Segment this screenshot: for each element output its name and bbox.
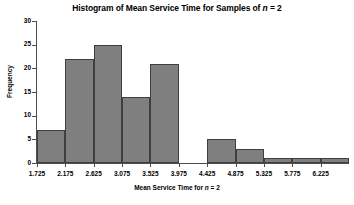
histogram-bar	[37, 130, 65, 163]
histogram-bar	[94, 45, 122, 163]
y-axis-tick-label: 25	[1, 41, 31, 48]
histogram-bar	[122, 97, 150, 163]
histogram-bar	[264, 158, 292, 163]
x-axis-tick	[292, 164, 293, 167]
histogram-bar	[65, 59, 93, 163]
x-axis-line	[36, 163, 349, 164]
histogram-chart: Histogram of Mean Service Time for Sampl…	[0, 0, 354, 205]
y-axis-tick-label: 10	[1, 112, 31, 119]
x-axis-tick	[179, 164, 180, 167]
histogram-bar	[207, 139, 235, 163]
y-axis-tick-label: 15	[1, 89, 31, 96]
chart-title-prefix: Histogram of Mean Service Time for Sampl…	[72, 3, 262, 13]
x-axis-title-suffix: = 2	[209, 184, 220, 191]
histogram-bar	[292, 158, 320, 163]
x-axis-title: Mean Service Time for n = 2	[0, 184, 354, 191]
x-axis-tick-label: 6.225	[301, 170, 341, 177]
x-axis-tick	[207, 164, 208, 167]
y-axis-tick-label: 30	[1, 18, 31, 25]
x-axis-tick	[65, 164, 66, 167]
x-axis-tick	[150, 164, 151, 167]
x-axis-tick	[321, 164, 322, 167]
histogram-bar	[150, 64, 178, 163]
chart-title: Histogram of Mean Service Time for Sampl…	[0, 3, 354, 13]
y-axis-tick-label: 5	[1, 136, 31, 143]
plot-area	[37, 21, 349, 163]
x-axis-title-prefix: Mean Service Time for	[134, 184, 205, 191]
y-axis-tick-label: 20	[1, 65, 31, 72]
x-axis-tick	[264, 164, 265, 167]
histogram-bar	[236, 149, 264, 163]
x-axis-tick	[94, 164, 95, 167]
chart-title-suffix: = 2	[268, 3, 282, 13]
x-axis-tick	[37, 164, 38, 167]
x-axis-tick	[236, 164, 237, 167]
y-axis-tick-label: 0	[1, 160, 31, 167]
histogram-bar	[321, 158, 349, 163]
x-axis-tick	[122, 164, 123, 167]
